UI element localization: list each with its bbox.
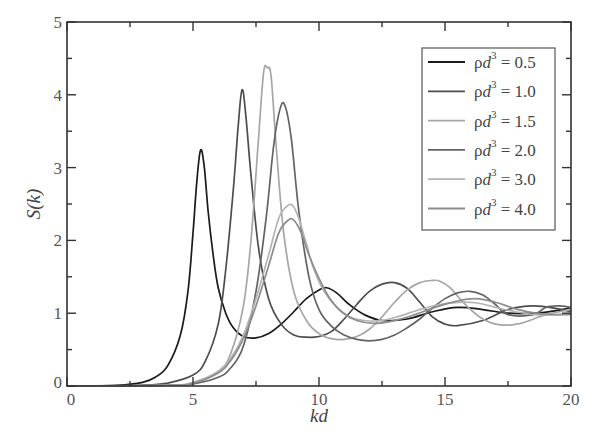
y-tick-label: 0 [54,373,63,392]
x-tick-label: 0 [67,390,76,409]
series-line-4 [67,204,571,386]
x-tick-label: 5 [189,390,198,409]
series-line-5 [67,219,571,386]
y-tick-label: 2 [54,231,63,250]
x-axis-label: kd [310,405,328,426]
y-tick-label: 4 [54,86,63,105]
legend-label: ρd3 = 1.0 [474,78,536,101]
legend-label: ρd3 = 4.0 [474,196,536,219]
y-tick-label: 1 [54,304,63,323]
x-tick-label: 20 [563,390,580,409]
y-tick-label: 5 [54,13,63,32]
x-tick-label: 15 [437,390,454,409]
legend-label: ρd3 = 2.0 [474,137,536,160]
legend-label: ρd3 = 3.0 [474,166,536,189]
y-tick-label: 3 [54,159,63,178]
legend: ρd3 = 0.5ρd3 = 1.0ρd3 = 1.5ρd3 = 2.0ρd3 … [422,48,555,230]
y-axis-label: S(k) [23,189,45,220]
legend-label: ρd3 = 0.5 [474,49,536,72]
structure-factor-chart: 05101520 012345 kd S(k) ρd3 = 0.5ρd3 = 1… [0,0,610,435]
legend-label: ρd3 = 1.5 [474,108,536,131]
y-tick-labels: 012345 [54,13,63,392]
